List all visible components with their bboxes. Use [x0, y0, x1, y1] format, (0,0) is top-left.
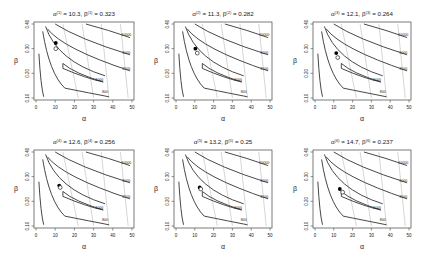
- x-axis-label: α: [221, 115, 225, 122]
- contour-lines: [39, 152, 130, 226]
- contour-label: 1500: [399, 195, 407, 199]
- y-tick-label: 0.10: [304, 221, 309, 230]
- x-tick-label: 40: [388, 233, 394, 238]
- y-tick-label: 0.10: [304, 93, 309, 102]
- y-tick-label: 0.20: [165, 68, 170, 77]
- y-tick-label: 0.30: [165, 44, 170, 53]
- x-tick-label: 0: [314, 105, 317, 110]
- y-tick-label: 0.30: [25, 172, 30, 181]
- figure: α(1) = 10.3, β(1) = 0.323100005000150010…: [0, 0, 422, 257]
- contour-label: 800: [102, 218, 108, 222]
- current-estimate-point: [193, 47, 197, 51]
- y-axis-label: β: [154, 185, 158, 193]
- x-tick-label: 50: [129, 233, 135, 238]
- y-tick-label: 0.40: [25, 19, 30, 28]
- x-tick-label: 10: [331, 233, 337, 238]
- x-tick-label: 10: [192, 105, 198, 110]
- x-tick-label: 40: [249, 105, 255, 110]
- x-tick-label: 30: [91, 233, 97, 238]
- y-tick-label: 0.20: [25, 68, 30, 77]
- next-estimate-point: [341, 190, 345, 194]
- x-tick-label: 30: [369, 233, 375, 238]
- y-axis-label: β: [14, 57, 18, 65]
- next-estimate-point: [336, 56, 340, 60]
- contour-panel-2: α(2) = 11.3, β(2) = 0.282100005000150010…: [154, 10, 273, 123]
- contour-lines: [318, 24, 407, 98]
- next-estimate-point: [195, 51, 199, 55]
- contour-panel-4: α(4) = 12.6, β(4) = 0.256100005000150010…: [14, 138, 135, 251]
- contour-label: 1000: [234, 78, 242, 82]
- contour-label: 800: [380, 218, 386, 222]
- x-tick-label: 10: [53, 233, 59, 238]
- x-tick-label: 40: [110, 233, 116, 238]
- contour-label: 1000: [95, 206, 103, 210]
- contour-label: 800: [380, 90, 386, 94]
- next-estimate-point: [199, 187, 203, 191]
- x-tick-label: 20: [72, 105, 78, 110]
- contour-label: 1500: [260, 67, 268, 71]
- contour-panel-1: α(1) = 10.3, β(1) = 0.323100005000150010…: [14, 10, 135, 123]
- current-estimate-point: [334, 51, 338, 55]
- figure-canvas: α(1) = 10.3, β(1) = 0.323100005000150010…: [0, 0, 422, 257]
- current-estimate-point: [338, 187, 342, 191]
- y-tick-label: 0.10: [165, 221, 170, 230]
- contour-panel-6: α(6) = 14.7, β(6) = 0.237100005000150010…: [293, 138, 412, 251]
- x-tick-label: 20: [211, 105, 217, 110]
- contour-lines: [179, 152, 268, 226]
- contour-label: 800: [241, 218, 247, 222]
- x-tick-label: 0: [175, 105, 178, 110]
- panel-title: α(6) = 14.7, β(6) = 0.237: [331, 138, 394, 146]
- x-tick-label: 40: [249, 233, 255, 238]
- contour-label: 10000: [259, 161, 269, 165]
- y-tick-label: 0.10: [25, 221, 30, 230]
- x-tick-label: 0: [35, 233, 38, 238]
- x-tick-label: 30: [91, 105, 97, 110]
- contour-label: 1500: [260, 195, 268, 199]
- x-tick-label: 20: [211, 233, 217, 238]
- contour-label: 5000: [260, 51, 268, 55]
- contour-label: 1500: [122, 195, 130, 199]
- panel-title: α(5) = 13.2, β(5) = 0.25: [194, 138, 253, 146]
- contour-label: 10000: [398, 161, 408, 165]
- panel-title: α(3) = 12.1, β(3) = 0.264: [331, 10, 394, 18]
- y-tick-label: 0.20: [304, 196, 309, 205]
- y-tick-label: 0.40: [304, 19, 309, 28]
- y-tick-label: 0.30: [304, 44, 309, 53]
- y-tick-label: 0.30: [304, 172, 309, 181]
- x-tick-label: 50: [129, 105, 135, 110]
- y-tick-label: 0.40: [304, 147, 309, 156]
- y-tick-label: 0.40: [25, 147, 30, 156]
- x-tick-label: 50: [406, 233, 412, 238]
- contour-panel-3: α(3) = 12.1, β(3) = 0.264100005000150010…: [293, 10, 412, 123]
- y-tick-label: 0.30: [25, 44, 30, 53]
- contour-label: 10000: [259, 33, 269, 37]
- x-tick-label: 40: [388, 105, 394, 110]
- x-tick-label: 30: [230, 105, 236, 110]
- y-tick-label: 0.40: [165, 147, 170, 156]
- y-axis-label: β: [293, 57, 297, 65]
- contour-label: 5000: [122, 51, 130, 55]
- contour-label: 5000: [122, 179, 130, 183]
- current-estimate-point: [54, 41, 58, 45]
- contour-panel-5: α(5) = 13.2, β(5) = 0.251000050001500100…: [154, 138, 273, 251]
- contour-label: 10000: [398, 33, 408, 37]
- y-tick-label: 0.20: [304, 68, 309, 77]
- x-tick-label: 0: [35, 105, 38, 110]
- contour-label: 5000: [399, 51, 407, 55]
- x-axis-label: α: [82, 115, 86, 122]
- x-tick-label: 10: [192, 233, 198, 238]
- x-tick-label: 20: [350, 105, 356, 110]
- y-tick-label: 0.10: [165, 93, 170, 102]
- x-tick-label: 40: [110, 105, 116, 110]
- contour-label: 800: [241, 90, 247, 94]
- y-tick-label: 0.20: [25, 196, 30, 205]
- contour-lines: [179, 24, 268, 98]
- y-tick-label: 0.20: [165, 196, 170, 205]
- x-tick-label: 20: [350, 233, 356, 238]
- y-tick-label: 0.10: [25, 93, 30, 102]
- contour-label: 1500: [399, 67, 407, 71]
- contour-label: 10000: [121, 161, 131, 165]
- contour-label: 1000: [95, 78, 103, 82]
- y-tick-label: 0.30: [165, 172, 170, 181]
- x-axis-label: α: [221, 243, 225, 250]
